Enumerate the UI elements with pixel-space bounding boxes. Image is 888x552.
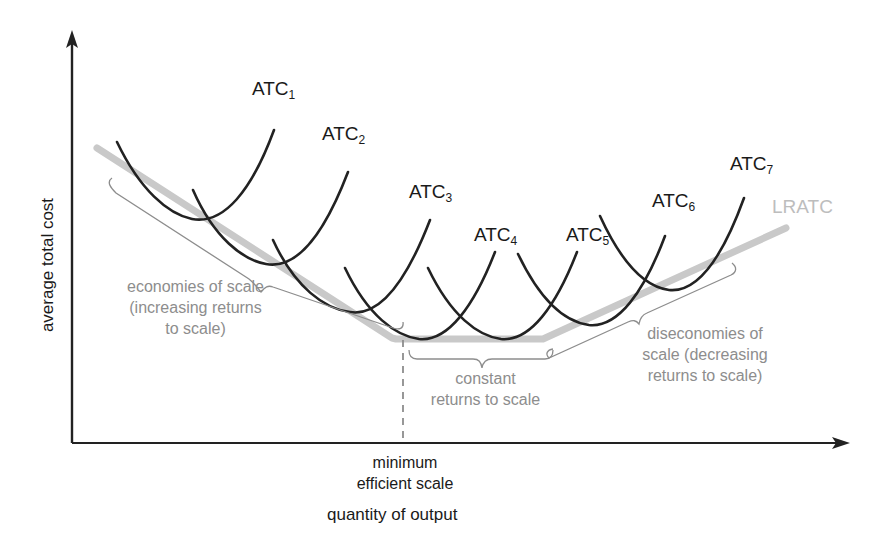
atc-label-1-text: ATC <box>252 78 289 99</box>
economies-annotation: economies of scale (increasing returns t… <box>108 276 283 339</box>
diseconomies-annotation: diseconomies of scale (decreasing return… <box>625 323 785 386</box>
atc-curve-2 <box>193 172 348 265</box>
diagram-canvas: average total cost quantity of output AT… <box>0 0 888 552</box>
atc-label-6-sub: 6 <box>689 200 696 214</box>
atc-label-6-text: ATC <box>652 190 689 211</box>
atc-label-1: ATC1 <box>252 78 295 100</box>
constant-brace <box>409 350 553 368</box>
atc-label-1-sub: 1 <box>289 88 296 102</box>
atc-label-4-sub: 4 <box>511 234 518 248</box>
atc-label-7-text: ATC <box>730 153 767 174</box>
atc-label-3-text: ATC <box>409 181 446 202</box>
x-axis-label: quantity of output <box>327 505 457 525</box>
atc-label-5-sub: 5 <box>603 234 610 248</box>
atc-label-6: ATC6 <box>652 190 695 212</box>
atc-label-4: ATC4 <box>474 224 517 246</box>
atc-label-3: ATC3 <box>409 181 452 203</box>
atc-label-5-text: ATC <box>566 224 603 245</box>
y-axis <box>66 30 78 443</box>
x-axis <box>72 437 850 449</box>
constant-annotation: constant returns to scale <box>413 368 558 410</box>
lratc-label: LRATC <box>772 196 833 218</box>
atc-label-7-sub: 7 <box>767 163 774 177</box>
atc-label-3-sub: 3 <box>446 191 453 205</box>
atc-label-2-sub: 2 <box>359 133 366 147</box>
y-axis-label: average total cost <box>38 175 58 355</box>
atc-curve-6 <box>518 236 665 325</box>
atc-label-4-text: ATC <box>474 224 511 245</box>
atc-curve-3 <box>273 220 430 312</box>
atc-label-2-text: ATC <box>322 123 359 144</box>
minimum-efficient-scale-label: minimum efficient scale <box>335 452 475 494</box>
atc-label-5: ATC5 <box>566 224 609 246</box>
atc-label-2: ATC2 <box>322 123 365 145</box>
atc-label-7: ATC7 <box>730 153 773 175</box>
